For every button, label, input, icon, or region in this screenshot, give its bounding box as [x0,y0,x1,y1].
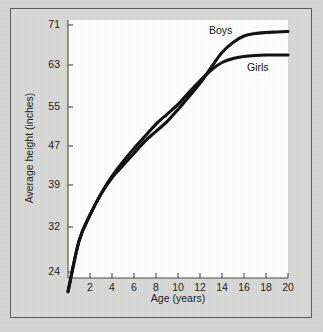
x-axis-title: Age (years) [68,292,288,304]
figure-chart: 24323947556371 2468101214161820 Age (yea… [0,0,323,332]
y-tick-label: 47 [36,139,60,151]
y-tick-label: 39 [36,178,60,190]
y-axis-title: Average height (inches) [23,58,35,238]
y-tick-label: 55 [36,100,60,112]
series-label-girls: Girls [247,61,269,73]
y-tick-label: 63 [36,58,60,70]
y-tick-label: 32 [36,220,60,232]
y-tick-label: 24 [36,265,60,277]
plot-background [68,20,288,278]
series-label-boys: Boys [209,24,232,36]
y-tick-label: 71 [36,18,60,30]
